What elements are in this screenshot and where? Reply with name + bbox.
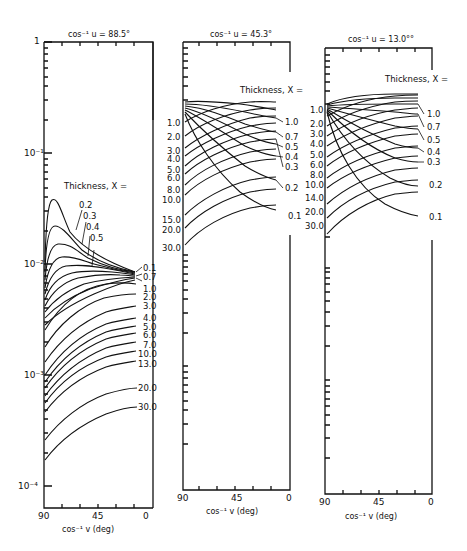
peak-label: 0.2 [79, 201, 93, 210]
panel-3-legend-title: Thickness, X = [385, 75, 448, 84]
left-label: 8.0 [310, 171, 324, 180]
left-label: 5.0 [310, 151, 324, 160]
right-label: 1.0 [427, 110, 441, 119]
y-tick-1e-1: 10⁻¹ [24, 149, 44, 158]
right-label: 0.1 [429, 213, 443, 222]
right-label: 6.0 [143, 331, 157, 340]
right-label: 30.0 [138, 403, 157, 412]
peak-label: 0.4 [86, 223, 100, 232]
right-label: 10.0 [138, 350, 157, 359]
y-tick-1e-2: 10⁻² [24, 260, 44, 269]
right-label: 13.0 [138, 360, 157, 369]
right-label: 0.7 [285, 133, 299, 142]
left-label: 10.0 [305, 181, 324, 190]
right-label: 3.0 [143, 302, 157, 311]
right-label: 0.3 [427, 158, 441, 167]
right-label: 0.1 [288, 212, 302, 221]
panel-2-xlabel: cos⁻¹ v (deg) [206, 508, 258, 516]
panel-3-xlabel: cos⁻¹ v (deg) [345, 513, 397, 521]
right-label: 0.5 [427, 136, 441, 145]
peak-label: 0.3 [83, 212, 97, 221]
x-tick-0: 0 [143, 512, 149, 521]
left-label: 30.0 [305, 222, 324, 231]
right-label: 0.7 [427, 123, 441, 132]
panel-3-curves [327, 94, 424, 234]
panel-1-xlabel: cos⁻¹ v (deg) [62, 526, 114, 534]
panel-3-title: cos⁻¹ u = 13.0°° [348, 36, 414, 44]
left-label: 1.0 [310, 106, 324, 115]
y-tick-1e-3: 10⁻³ [24, 371, 44, 380]
peak-label: 0.5 [90, 234, 104, 243]
right-label: 0.4 [427, 148, 441, 157]
left-label: 2.0 [310, 120, 324, 129]
panel-2-curves [185, 101, 283, 245]
left-label: 4.0 [167, 155, 181, 164]
panel-3-frame [325, 48, 432, 494]
right-label: 0.2 [429, 181, 443, 190]
panel-1-curves [45, 42, 153, 460]
x-tick-45: 45 [373, 498, 384, 507]
left-label: 20.0 [305, 208, 324, 217]
right-label: 0.2 [285, 184, 299, 193]
right-label: 0.4 [285, 153, 299, 162]
right-label: 0.5 [285, 143, 299, 152]
left-label: 6.0 [310, 161, 324, 170]
left-label: 14.0 [305, 194, 324, 203]
x-tick-90: 90 [177, 494, 188, 503]
y-tick-1e-4: 10⁻⁴ [18, 482, 38, 491]
x-tick-0: 0 [428, 498, 434, 507]
x-tick-90: 90 [319, 498, 330, 507]
left-label: 1.0 [167, 119, 181, 128]
panel-1-legend-title: Thickness, X = [64, 182, 127, 191]
left-label: 30.0 [162, 244, 181, 253]
panel-2-title: cos⁻¹ u = 45.3° [210, 31, 272, 39]
left-label: 4.0 [310, 140, 324, 149]
panel-1-title: cos⁻¹ u = 88.5° [68, 31, 130, 39]
left-label: 3.0 [310, 130, 324, 139]
left-label: 10.0 [162, 196, 181, 205]
panel-2-legend-title: Thickness, X = [240, 86, 303, 95]
x-tick-45: 45 [231, 494, 242, 503]
right-label: 0.7 [143, 273, 157, 282]
left-label: 15.0 [162, 216, 181, 225]
left-label: 20.0 [162, 226, 181, 235]
x-tick-0: 0 [286, 494, 292, 503]
x-tick-45: 45 [92, 512, 103, 521]
y-tick-1: 1 [34, 37, 40, 46]
panel-2-y-ticks [183, 48, 188, 444]
left-label: 6.0 [167, 174, 181, 183]
right-label: 1.0 [285, 118, 299, 127]
left-label: 8.0 [167, 186, 181, 195]
x-tick-90: 90 [38, 512, 49, 521]
left-label: 2.0 [167, 133, 181, 142]
right-label: 0.3 [285, 163, 299, 172]
right-label: 20.0 [138, 384, 157, 393]
